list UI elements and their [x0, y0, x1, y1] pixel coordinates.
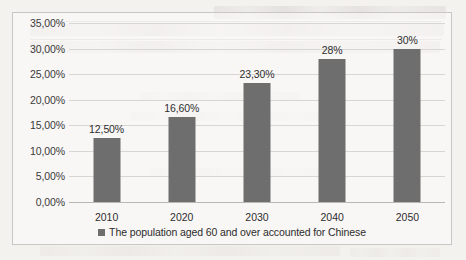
- y-axis-tick-label: 20,00%: [3, 94, 65, 106]
- x-axis-category-label: 2020: [170, 211, 193, 223]
- bar[interactable]: [319, 59, 346, 202]
- y-axis-tick-label: 30,00%: [3, 43, 65, 55]
- plot-wrapper: 0,00%5,00%10,00%15,00%20,00%25,00%30,00%…: [13, 13, 451, 244]
- bar-value-label: 30%: [397, 34, 418, 46]
- x-axis-category-label: 2030: [245, 211, 268, 223]
- legend-series-label: The population aged 60 and over accounte…: [109, 226, 366, 238]
- bar-group: 12,50%2010: [69, 23, 144, 202]
- axis-baseline: [69, 202, 445, 203]
- y-axis-tick-label: 5,00%: [3, 170, 65, 182]
- bar-group: 30%2050: [370, 23, 445, 202]
- bar-value-label: 16,60%: [164, 102, 199, 114]
- y-axis-tick-label: 25,00%: [3, 68, 65, 80]
- y-axis-tick-label: 0,00%: [3, 196, 65, 208]
- bar-group: 23,30%2030: [219, 23, 294, 202]
- x-axis-category-label: 2010: [95, 211, 118, 223]
- y-axis-tick-label: 15,00%: [3, 119, 65, 131]
- chart-legend: The population aged 60 and over accounte…: [13, 226, 451, 238]
- legend-square-marker-icon: [98, 229, 105, 236]
- bar[interactable]: [243, 83, 270, 202]
- bar-value-label: 23,30%: [239, 68, 274, 80]
- chart-container: 0,00%5,00%10,00%15,00%20,00%25,00%30,00%…: [12, 12, 452, 245]
- plot-area: 12,50%201016,60%202023,30%203028%204030%…: [69, 23, 445, 202]
- y-axis-tick-label: 35,00%: [3, 17, 65, 29]
- y-axis-tick-label: 10,00%: [3, 145, 65, 157]
- bar-group: 16,60%2020: [144, 23, 219, 202]
- bar-value-label: 12,50%: [89, 123, 124, 135]
- bar-group: 28%2040: [295, 23, 370, 202]
- bar-value-label: 28%: [322, 44, 343, 56]
- bar[interactable]: [168, 117, 195, 202]
- x-axis-category-label: 2040: [321, 211, 344, 223]
- bar[interactable]: [394, 49, 421, 202]
- x-axis-category-label: 2050: [396, 211, 419, 223]
- bar[interactable]: [93, 138, 120, 202]
